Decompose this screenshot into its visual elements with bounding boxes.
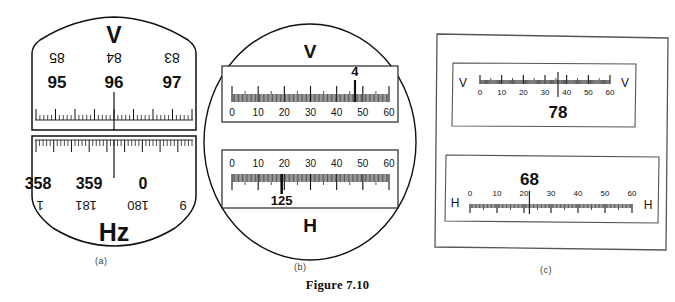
panel-a-h-inverted-number: 180 bbox=[127, 198, 149, 213]
scale-tick-label: 20 bbox=[520, 189, 529, 198]
scale-tick-label: 40 bbox=[562, 88, 571, 97]
figure-7-10: V 85 84 83 95 96 97 bbox=[0, 0, 675, 302]
panel-b-v-label: V bbox=[304, 41, 317, 62]
panel-a-v-number: 95 bbox=[48, 73, 67, 92]
panel-b-h-label: H bbox=[303, 215, 317, 236]
scale-tick-label: 0 bbox=[229, 107, 235, 118]
scale-tick-label: 20 bbox=[279, 107, 291, 118]
panel-c-h-label-left: H bbox=[451, 196, 460, 210]
scale-tick-label: 0 bbox=[478, 88, 483, 97]
scale-tick-label: 40 bbox=[331, 107, 343, 118]
panel-a-hz-label: Hz bbox=[99, 218, 130, 246]
scale-tick-label: 20 bbox=[279, 158, 291, 169]
scale-tick-label: 60 bbox=[383, 107, 395, 118]
panel-a-h-inverted-number: 9 bbox=[179, 198, 186, 213]
scale-tick-label: 20 bbox=[519, 88, 528, 97]
panel-b-v-reading: 4 bbox=[351, 64, 359, 79]
scale-tick-label: 30 bbox=[305, 107, 317, 118]
scale-tick-label: 50 bbox=[357, 158, 369, 169]
scale-tick-label: 10 bbox=[493, 189, 502, 198]
scale-tick-label: 30 bbox=[547, 189, 556, 198]
scale-tick-label: 0 bbox=[229, 158, 235, 169]
panel-a-v-number: 96 bbox=[105, 73, 124, 92]
panel-c-v-reading: 78 bbox=[549, 103, 568, 122]
figure-caption: Figure 7.10 bbox=[0, 278, 675, 293]
scale-tick-label: 60 bbox=[383, 158, 395, 169]
panel-c-v-label-left: V bbox=[459, 76, 467, 90]
panel-c-h-label-right: H bbox=[644, 198, 653, 212]
scale-tick-label: 10 bbox=[253, 158, 265, 169]
scale-tick-label: 60 bbox=[628, 189, 637, 198]
sub-caption-c: (c) bbox=[540, 265, 552, 275]
scale-tick-label: 40 bbox=[331, 158, 343, 169]
panel-a-v-number: 97 bbox=[163, 73, 182, 92]
panel-a-v-inverted-number: 85 bbox=[49, 50, 65, 66]
scale-tick-label: 0 bbox=[468, 189, 473, 198]
panel-c-h-reading: 68 bbox=[520, 170, 539, 189]
panel-a: V 85 84 83 95 96 97 bbox=[25, 17, 196, 246]
panel-a-v-inverted-number: 83 bbox=[164, 50, 180, 66]
panel-a-v-label: V bbox=[106, 22, 122, 48]
scale-tick-label: 50 bbox=[584, 88, 593, 97]
panel-a-h-number: 358 bbox=[25, 175, 52, 192]
scale-tick-label: 50 bbox=[601, 189, 610, 198]
panel-c-v-label-right: V bbox=[621, 76, 629, 90]
panel-b-h-reading: 125 bbox=[271, 193, 293, 208]
panel-a-h-number: 359 bbox=[76, 175, 103, 192]
panel-b: V 0102030405060 4 0102030405060 125 H bbox=[204, 24, 416, 260]
sub-caption-b: (b) bbox=[294, 262, 307, 272]
scale-tick-label: 30 bbox=[305, 158, 317, 169]
scale-tick-label: 30 bbox=[541, 88, 550, 97]
scale-tick-label: 50 bbox=[357, 107, 369, 118]
panel-a-h-inverted-number: 181 bbox=[75, 198, 97, 213]
scale-tick-label: 40 bbox=[574, 189, 583, 198]
scale-tick-label: 60 bbox=[606, 88, 615, 97]
scale-tick-label: 10 bbox=[497, 88, 506, 97]
panel-a-h-inverted-number: 1 bbox=[36, 198, 43, 213]
panel-a-v-inverted-number: 84 bbox=[106, 50, 122, 66]
scale-tick-label: 10 bbox=[253, 107, 265, 118]
sub-caption-a: (a) bbox=[95, 256, 108, 266]
panel-c: V V 0102030405060 78 H H 0102030405060 6… bbox=[435, 34, 668, 250]
panel-a-h-number: 0 bbox=[139, 175, 148, 192]
